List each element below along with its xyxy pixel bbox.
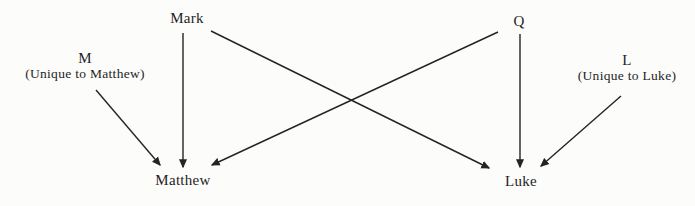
edge-l-to-luke [541, 96, 621, 166]
diagram-edges [0, 0, 695, 206]
node-m-label: M [25, 51, 145, 66]
node-m: M (Unique to Matthew) [25, 51, 145, 82]
node-luke: Luke [505, 174, 537, 189]
edge-mark-to-luke [211, 31, 489, 168]
node-mark: Mark [170, 11, 204, 26]
node-q: Q [513, 14, 524, 29]
node-matthew-label: Matthew [155, 173, 210, 188]
node-mark-label: Mark [170, 11, 204, 26]
synoptic-sources-diagram: Mark Q M (Unique to Matthew) L (Unique t… [0, 0, 695, 206]
node-m-sublabel: (Unique to Matthew) [25, 66, 145, 82]
node-l: L (Unique to Luke) [578, 53, 677, 84]
node-l-label: L [578, 53, 677, 68]
node-matthew: Matthew [155, 173, 210, 188]
node-l-sublabel: (Unique to Luke) [578, 68, 677, 84]
edge-m-to-matthew [96, 90, 160, 165]
node-q-label: Q [513, 14, 524, 29]
node-luke-label: Luke [505, 174, 537, 189]
